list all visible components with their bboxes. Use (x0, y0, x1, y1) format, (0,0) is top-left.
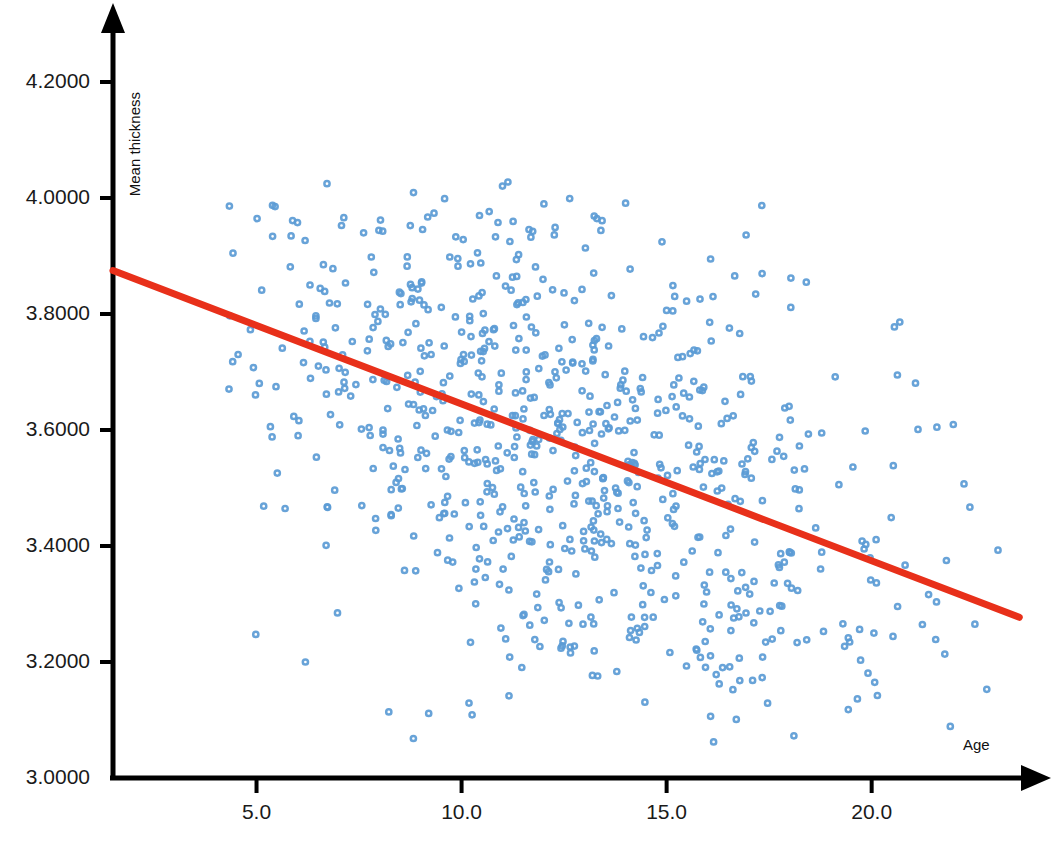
scatter-point (291, 414, 296, 419)
scatter-point (503, 284, 508, 289)
scatter-point (531, 480, 536, 485)
y-tick-label: 3.6000 (0, 417, 90, 441)
scatter-point (283, 506, 288, 511)
scatter-point (961, 481, 966, 486)
scatter-point (797, 443, 802, 448)
scatter-point (691, 464, 696, 469)
scatter-point (341, 215, 346, 220)
scatter-point (586, 410, 591, 415)
scatter-point (430, 408, 435, 413)
scatter-point (473, 601, 478, 606)
scatter-point (541, 201, 546, 206)
scatter-point (468, 640, 473, 645)
scatter-point (302, 328, 307, 333)
scatter-point (642, 624, 647, 629)
scatter-point (419, 281, 424, 286)
scatter-point (760, 271, 765, 276)
scatter-point (556, 346, 561, 351)
scatter-point (704, 589, 709, 594)
scatter-point (642, 615, 647, 620)
scatter-point (453, 314, 458, 319)
scatter-point (670, 308, 675, 313)
scatter-point (503, 636, 508, 641)
scatter-point (380, 445, 385, 450)
scatter-point (818, 566, 823, 571)
scatter-point (633, 511, 638, 516)
scatter-point (493, 458, 498, 463)
scatter-point (619, 326, 624, 331)
scatter-point (473, 567, 478, 572)
scatter-point (743, 585, 748, 590)
scatter-point (371, 325, 376, 330)
scatter-point (567, 537, 572, 542)
scatter-point (781, 454, 786, 459)
scatter-point (433, 434, 438, 439)
scatter-point (509, 554, 514, 559)
scatter-point (655, 411, 660, 416)
scatter-point (655, 551, 660, 556)
scatter-point (485, 461, 490, 466)
scatter-point (467, 524, 472, 529)
scatter-point (418, 346, 423, 351)
scatter-plot-figure: 3.00003.20003.40003.60003.80004.00004.20… (0, 0, 1063, 841)
scatter-point (462, 448, 467, 453)
scatter-point (655, 563, 660, 568)
scatter-point (507, 239, 512, 244)
scatter-point (524, 348, 529, 353)
scatter-point (496, 443, 501, 448)
scatter-point (672, 294, 677, 299)
scatter-point (680, 413, 685, 418)
scatter-point (667, 650, 672, 655)
scatter-point (332, 488, 337, 493)
scatter-point (415, 287, 420, 292)
scatter-point (455, 264, 460, 269)
scatter-point (443, 474, 448, 479)
scatter-point (600, 325, 605, 330)
scatter-point (698, 461, 703, 466)
scatter-point (580, 430, 585, 435)
scatter-point (537, 644, 542, 649)
scatter-point (478, 513, 483, 518)
scatter-point (747, 592, 752, 597)
scatter-point (632, 554, 637, 559)
scatter-point (494, 468, 499, 473)
scatter-point (481, 524, 486, 529)
scatter-point (470, 296, 475, 301)
scatter-point (396, 436, 401, 441)
scatter-point (328, 412, 333, 417)
scatter-point (715, 550, 720, 555)
scatter-point (523, 503, 528, 508)
scatter-point (561, 290, 566, 295)
scatter-point (673, 504, 678, 509)
scatter-point (598, 228, 603, 233)
scatter-point (492, 492, 497, 497)
scatter-point (995, 548, 1000, 553)
scatter-point (586, 321, 591, 326)
scatter-point (573, 493, 578, 498)
scatter-point (535, 294, 540, 299)
axes-group (100, 3, 1051, 793)
scatter-point (648, 590, 653, 595)
scatter-point (583, 245, 588, 250)
scatter-point (635, 626, 640, 631)
scatter-point (842, 644, 847, 649)
scatter-point (727, 664, 732, 669)
scatter-point (903, 563, 908, 568)
scatter-point (396, 476, 401, 481)
scatter-point (372, 312, 377, 317)
scatter-point (580, 622, 585, 627)
scatter-point (895, 372, 900, 377)
scatter-point (485, 559, 490, 564)
scatter-point (255, 216, 260, 221)
scatter-point (296, 418, 301, 423)
scatter-point (479, 374, 484, 379)
scatter-point (673, 573, 678, 578)
scatter-point (447, 374, 452, 379)
scatter-point (511, 537, 516, 542)
scatter-point (588, 460, 593, 465)
scatter-point (751, 579, 756, 584)
scatter-point (501, 567, 506, 572)
scatter-point (520, 416, 525, 421)
scatter-point (604, 403, 609, 408)
scatter-point (367, 425, 372, 430)
